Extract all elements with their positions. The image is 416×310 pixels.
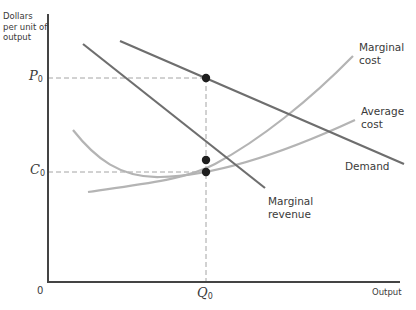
mc-label-line1: Marginal xyxy=(359,41,404,54)
y-axis-label: Dollars per unit of output xyxy=(3,11,49,43)
q0-main: Q xyxy=(197,285,208,300)
mr-label-line1: Marginal xyxy=(268,195,313,208)
ac-label-line1: Average xyxy=(361,105,404,118)
mc-label-line2: cost xyxy=(359,54,404,67)
q0-sub: 0 xyxy=(208,292,213,301)
c0-tick-label: C0 xyxy=(30,163,45,178)
mr-label-line2: revenue xyxy=(268,208,313,221)
x-axis-label: Output xyxy=(372,288,402,298)
guide-lines xyxy=(48,78,206,282)
c0-main: C xyxy=(30,162,40,177)
price-point xyxy=(202,74,210,82)
c0-sub: 0 xyxy=(40,169,45,178)
ac-label-line2: cost xyxy=(361,118,404,131)
q0-tick-label: Q0 xyxy=(197,286,213,301)
chart-canvas xyxy=(0,0,416,310)
average-cost-label: Average cost xyxy=(361,105,404,130)
marginal-cost-label: Marginal cost xyxy=(359,41,404,66)
demand-label: Demand xyxy=(345,160,390,173)
p0-main: P xyxy=(29,68,38,83)
marginal-revenue-label: Marginal revenue xyxy=(268,195,313,220)
p0-tick-label: P0 xyxy=(29,69,43,84)
marginal-revenue-curve xyxy=(83,44,265,188)
mr-mc-intersection-point xyxy=(202,156,210,164)
average-cost-point xyxy=(202,168,210,176)
p0-sub: 0 xyxy=(38,75,43,84)
origin-label: 0 xyxy=(37,285,43,297)
